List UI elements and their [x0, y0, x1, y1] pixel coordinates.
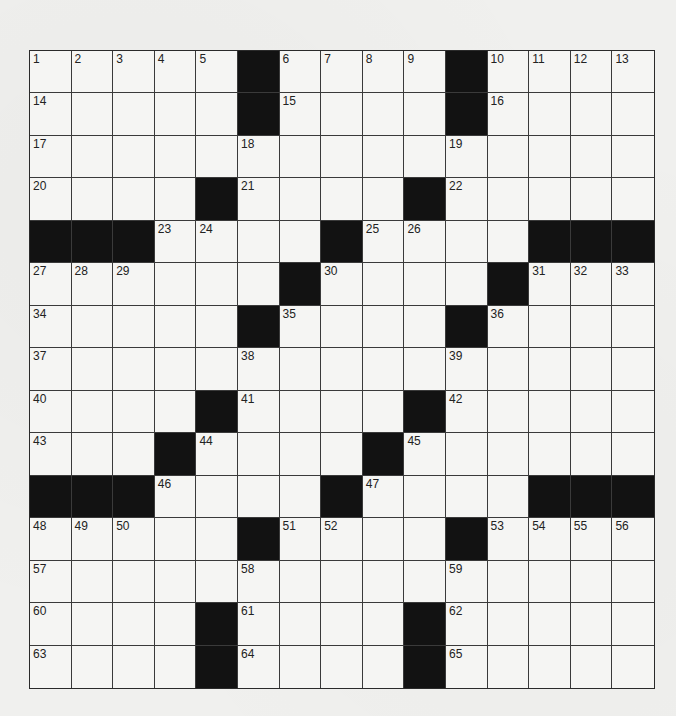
- grid-cell[interactable]: [72, 433, 114, 475]
- grid-cell[interactable]: 10: [488, 51, 530, 93]
- grid-cell[interactable]: [488, 433, 530, 475]
- grid-cell[interactable]: [321, 433, 363, 475]
- grid-cell[interactable]: [363, 306, 405, 348]
- grid-cell[interactable]: 7: [321, 51, 363, 93]
- grid-cell[interactable]: [72, 391, 114, 433]
- grid-cell[interactable]: [196, 518, 238, 560]
- grid-cell[interactable]: 30: [321, 263, 363, 305]
- grid-cell[interactable]: [363, 646, 405, 688]
- grid-cell[interactable]: 52: [321, 518, 363, 560]
- grid-cell[interactable]: [404, 476, 446, 518]
- grid-cell[interactable]: [488, 476, 530, 518]
- grid-cell[interactable]: [72, 306, 114, 348]
- grid-cell[interactable]: [612, 348, 654, 390]
- grid-cell[interactable]: 53: [488, 518, 530, 560]
- grid-cell[interactable]: [155, 561, 197, 603]
- grid-cell[interactable]: [113, 93, 155, 135]
- grid-cell[interactable]: 33: [612, 263, 654, 305]
- grid-cell[interactable]: [612, 391, 654, 433]
- grid-cell[interactable]: [571, 178, 613, 220]
- grid-cell[interactable]: [238, 263, 280, 305]
- grid-cell[interactable]: 44: [196, 433, 238, 475]
- grid-cell[interactable]: [113, 561, 155, 603]
- grid-cell[interactable]: [488, 561, 530, 603]
- grid-cell[interactable]: [113, 348, 155, 390]
- grid-cell[interactable]: [155, 348, 197, 390]
- grid-cell[interactable]: [363, 518, 405, 560]
- grid-cell[interactable]: [72, 93, 114, 135]
- grid-cell[interactable]: [155, 178, 197, 220]
- grid-cell[interactable]: 65: [446, 646, 488, 688]
- grid-cell[interactable]: [363, 93, 405, 135]
- grid-cell[interactable]: 12: [571, 51, 613, 93]
- grid-cell[interactable]: [155, 263, 197, 305]
- grid-cell[interactable]: 31: [529, 263, 571, 305]
- grid-cell[interactable]: 22: [446, 178, 488, 220]
- grid-cell[interactable]: 60: [30, 603, 72, 645]
- grid-cell[interactable]: [571, 561, 613, 603]
- grid-cell[interactable]: [280, 476, 322, 518]
- grid-cell[interactable]: [446, 221, 488, 263]
- grid-cell[interactable]: 2: [72, 51, 114, 93]
- grid-cell[interactable]: 56: [612, 518, 654, 560]
- grid-cell[interactable]: [196, 348, 238, 390]
- grid-cell[interactable]: 57: [30, 561, 72, 603]
- grid-cell[interactable]: [488, 136, 530, 178]
- grid-cell[interactable]: [529, 603, 571, 645]
- grid-cell[interactable]: 47: [363, 476, 405, 518]
- grid-cell[interactable]: [529, 178, 571, 220]
- grid-cell[interactable]: [363, 263, 405, 305]
- grid-cell[interactable]: 55: [571, 518, 613, 560]
- grid-cell[interactable]: [488, 348, 530, 390]
- grid-cell[interactable]: [571, 391, 613, 433]
- grid-cell[interactable]: [571, 136, 613, 178]
- grid-cell[interactable]: [196, 476, 238, 518]
- grid-cell[interactable]: [155, 646, 197, 688]
- grid-cell[interactable]: [363, 391, 405, 433]
- grid-cell[interactable]: [612, 646, 654, 688]
- grid-cell[interactable]: 14: [30, 93, 72, 135]
- grid-cell[interactable]: [488, 391, 530, 433]
- grid-cell[interactable]: [446, 263, 488, 305]
- grid-cell[interactable]: [155, 518, 197, 560]
- grid-cell[interactable]: 20: [30, 178, 72, 220]
- grid-cell[interactable]: [404, 306, 446, 348]
- grid-cell[interactable]: 8: [363, 51, 405, 93]
- grid-cell[interactable]: [113, 136, 155, 178]
- grid-cell[interactable]: 58: [238, 561, 280, 603]
- grid-cell[interactable]: [488, 178, 530, 220]
- grid-cell[interactable]: [321, 603, 363, 645]
- grid-cell[interactable]: [72, 603, 114, 645]
- grid-cell[interactable]: [363, 603, 405, 645]
- grid-cell[interactable]: [404, 263, 446, 305]
- grid-cell[interactable]: 36: [488, 306, 530, 348]
- grid-cell[interactable]: [529, 433, 571, 475]
- grid-cell[interactable]: [155, 136, 197, 178]
- grid-cell[interactable]: 3: [113, 51, 155, 93]
- grid-cell[interactable]: [113, 306, 155, 348]
- grid-cell[interactable]: [113, 433, 155, 475]
- grid-cell[interactable]: [280, 391, 322, 433]
- grid-cell[interactable]: 38: [238, 348, 280, 390]
- grid-cell[interactable]: [529, 646, 571, 688]
- grid-cell[interactable]: [363, 348, 405, 390]
- grid-cell[interactable]: [280, 646, 322, 688]
- grid-cell[interactable]: [529, 561, 571, 603]
- grid-cell[interactable]: [321, 178, 363, 220]
- grid-cell[interactable]: [280, 136, 322, 178]
- grid-cell[interactable]: [529, 136, 571, 178]
- grid-cell[interactable]: 42: [446, 391, 488, 433]
- grid-cell[interactable]: [321, 348, 363, 390]
- grid-cell[interactable]: 5: [196, 51, 238, 93]
- grid-cell[interactable]: [321, 646, 363, 688]
- grid-cell[interactable]: [571, 93, 613, 135]
- grid-cell[interactable]: 29: [113, 263, 155, 305]
- grid-cell[interactable]: [72, 178, 114, 220]
- grid-cell[interactable]: [612, 561, 654, 603]
- grid-cell[interactable]: 1: [30, 51, 72, 93]
- grid-cell[interactable]: 54: [529, 518, 571, 560]
- grid-cell[interactable]: [529, 306, 571, 348]
- grid-cell[interactable]: [196, 93, 238, 135]
- grid-cell[interactable]: [404, 348, 446, 390]
- grid-cell[interactable]: [404, 518, 446, 560]
